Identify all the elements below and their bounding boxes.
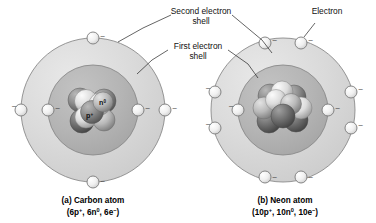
second-shell-leader-left (118, 15, 171, 42)
neon-caption-title: (b) Neon atom (257, 196, 312, 205)
carbon-nucleus (68, 88, 116, 133)
electron (15, 104, 27, 116)
electron (345, 86, 357, 98)
electron (322, 104, 334, 116)
carbon-caption-formula: (6p+, 6n0, 6e−) (67, 207, 120, 217)
electron (209, 122, 221, 134)
electron (232, 104, 244, 116)
atomic-structure-figure: n0 p+ – – – – – – (a) Carbon atom (6p+, … (0, 0, 376, 223)
electron (159, 104, 171, 116)
electron (132, 104, 144, 116)
electron (295, 37, 307, 49)
electron (345, 122, 357, 134)
first-electron-shell-label-line1: First electron (174, 41, 223, 51)
neon-caption-formula: (10p+, 10n0, 10e−) (252, 207, 318, 217)
carbon-caption-title: (a) Carbon atom (62, 196, 125, 205)
electron (42, 104, 54, 116)
electron-charge-glyph: – (359, 84, 364, 93)
electron (209, 86, 221, 98)
second-electron-shell-label-line2: shell (192, 16, 209, 26)
first-electron-shell-label-line2: shell (189, 51, 206, 61)
electron (87, 32, 99, 44)
neon-atom-diagram: – – – – – – – – – – ( (206, 35, 364, 217)
electron (87, 176, 99, 188)
carbon-atom-diagram: n0 p+ – – – – – – (a) Carbon atom (6p+, … (12, 31, 178, 217)
electron (259, 171, 271, 183)
electron-charge-glyph: – (359, 120, 364, 129)
electron-charge-glyph: – (309, 35, 314, 44)
electron-charge-glyph: – (173, 103, 178, 112)
electron (295, 171, 307, 183)
electron-label: Electron (312, 6, 343, 16)
second-electron-shell-label-line1: Second electron (171, 6, 232, 16)
